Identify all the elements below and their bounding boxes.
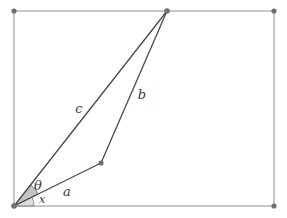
segment-b-label: b	[138, 87, 146, 102]
segment-a-label: a	[63, 184, 71, 199]
vertex-mid	[98, 160, 103, 165]
vertex-apex	[164, 8, 170, 14]
vertex-frame-top-right	[271, 8, 276, 13]
angle-theta-label: θ	[34, 178, 42, 193]
segment-c-label: c	[75, 101, 83, 116]
figure-container: a b c θ x	[0, 0, 287, 218]
vertex-markers	[11, 8, 276, 209]
geometry-diagram: a b c θ x	[0, 0, 287, 218]
segment-a-line	[14, 163, 101, 206]
vertex-frame-bottom-right	[271, 203, 276, 208]
segment-b-line	[101, 11, 167, 163]
vertex-origin	[11, 203, 17, 209]
vertex-frame-top-left	[11, 8, 16, 13]
angle-x-label: x	[39, 193, 46, 206]
